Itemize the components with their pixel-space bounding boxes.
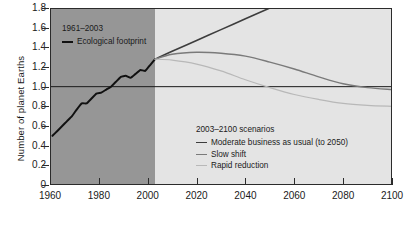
x-tick-label: 1960 xyxy=(30,190,70,201)
series-line xyxy=(155,59,392,106)
legend-scenarios: 2003–2100 scenarios Moderate business as… xyxy=(196,124,348,172)
legend-swatch-icon xyxy=(62,41,73,43)
series-line xyxy=(155,8,270,59)
legend-scenarios-title: 2003–2100 scenarios xyxy=(196,124,348,136)
x-tick-label: 2040 xyxy=(225,190,265,201)
legend-swatch-icon xyxy=(196,142,207,143)
legend-item: Ecological footprint xyxy=(62,36,146,48)
x-tick xyxy=(197,178,198,185)
y-tick xyxy=(42,146,49,147)
legend-item: Slow shift xyxy=(196,149,348,161)
chart-figure: 00.20.40.60.81.01.21.41.61.8 Number of p… xyxy=(0,0,412,230)
x-tick-label: 2100 xyxy=(372,190,412,201)
x-tick xyxy=(343,178,344,185)
legend-swatch-icon xyxy=(196,154,207,155)
y-tick xyxy=(42,126,49,127)
legend-item-label: Slow shift xyxy=(211,149,246,161)
x-tick xyxy=(392,178,393,185)
y-tick xyxy=(42,8,49,9)
x-tick xyxy=(245,178,246,185)
legend-item: Rapid reduction xyxy=(196,160,348,172)
x-tick-label: 1980 xyxy=(79,190,119,201)
x-tick xyxy=(294,178,295,185)
series-line xyxy=(52,59,155,136)
y-tick xyxy=(42,185,49,186)
x-tick xyxy=(99,178,100,185)
y-tick xyxy=(42,47,49,48)
x-tick-label: 2020 xyxy=(177,190,217,201)
y-tick xyxy=(42,165,49,166)
x-tick xyxy=(148,178,149,185)
y-tick xyxy=(42,67,49,68)
legend-historical: 1961–2003 Ecological footprint xyxy=(62,23,146,48)
legend-historical-title: 1961–2003 xyxy=(62,23,146,35)
legend-swatch-icon xyxy=(196,165,207,166)
legend-item: Moderate business as usual (to 2050) xyxy=(196,137,348,149)
y-tick xyxy=(42,28,49,29)
series-line xyxy=(155,52,392,89)
y-axis-title: Number of planet Earths xyxy=(15,34,26,184)
x-tick-label: 2060 xyxy=(274,190,314,201)
legend-item-label: Ecological footprint xyxy=(77,36,146,48)
x-tick-label: 2080 xyxy=(323,190,363,201)
legend-item-label: Moderate business as usual (to 2050) xyxy=(211,137,348,149)
y-tick-label: 1.8 xyxy=(10,2,46,13)
x-tick xyxy=(50,178,51,185)
y-tick xyxy=(42,87,49,88)
y-tick xyxy=(42,106,49,107)
legend-item-label: Rapid reduction xyxy=(211,160,268,172)
x-tick-label: 2000 xyxy=(128,190,168,201)
y-tick-label: 1.6 xyxy=(10,22,46,33)
